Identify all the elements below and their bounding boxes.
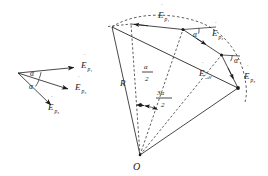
vertex-dot-endpoint [236,86,240,90]
angle-label-alpha-chain-1: α [193,30,198,39]
overdot-ep3-left: ̇ [51,96,53,97]
angle-arc-three-alpha-half-at-O [145,106,158,110]
angle-arc-alpha-chain-2 [231,55,233,61]
angle-arc-alpha-half-at-O [137,105,145,106]
angle-arc-alpha-2-left [36,80,39,87]
right-panel-group: ̇ E p₁ ̇ E p₂ ̇ E p₃ ̇ E ₑₖᴠ α α R α [108,4,255,172]
vector-label-sub-ep3-right: p₃ [250,77,256,83]
vector-label-ep1-left: ̇ E p₁ [80,54,92,72]
overdot-ep2-right: ̇ [215,22,217,23]
overdot-ep2-left: ̇ [78,76,80,77]
vector-label-letter-ep1-left: E [80,60,87,70]
dashed-radius-vertex-3 [140,55,222,155]
dashed-circle-arc [112,15,246,102]
vector-label-ep2-left: ̇ E p₂ [74,76,86,94]
vertex-dot-center-O [139,154,142,157]
vertex-dot-1 [182,28,185,31]
vector-label-ep3-right: ̇ E p₃ [243,65,255,83]
vector-label-sub-ep3-left: p₃ [54,108,60,114]
vertex-dot-2 [220,54,223,57]
angle-label-alpha-1-left: α [30,69,35,78]
vector-label-ep3-left: ̇ E p₃ [47,96,59,114]
vector-label-ep2-right: ̇ E p₂ [211,22,223,40]
chain-arrow-ep2 [196,38,206,45]
vector-label-letter-ep2-left: E [74,82,81,92]
center-label-O: O [133,161,140,172]
alpha-over-2-denominator: 2 [145,75,149,83]
radius-to-endpoint [140,88,238,155]
overdot-ep1-right: ̇ [161,4,163,5]
vector-label-ep1-right: ̇ E p₁ [157,4,169,22]
overdot-resultant: ̇ [202,62,204,63]
angle-label-alpha-over-2: α 2 [142,63,153,83]
vector-label-sub-ep2-left: p₂ [81,88,87,94]
vector-label-letter-ep3-right: E [243,71,250,81]
vector-ep2-left [18,73,68,89]
three-alpha-over-2-numerator: 3α [156,89,165,97]
vector-label-letter-resultant: E [198,68,205,78]
vector-label-letter-ep2-right: E [211,28,218,38]
vector-label-sub-ep1-right: p₁ [164,16,170,22]
overdot-ep3-right: ̇ [247,65,249,66]
vector-label-sub-ep2-right: p₂ [218,34,224,40]
angle-arc-alpha-1-left [39,72,41,78]
vector-label-sub-resultant: ₑₖᴠ [205,74,212,80]
angle-label-three-alpha-over-2: 3α 2 [156,89,172,109]
vector-label-letter-ep1-right: E [157,10,164,20]
vector-label-sub-ep1-left: p₁ [87,66,93,72]
vector-ep1-left [18,68,74,74]
three-alpha-over-2-denominator: 2 [161,101,165,109]
radius-label-R: R [119,78,126,88]
angle-label-alpha-chain-2: α [234,56,239,65]
left-panel-group: α α ̇ E p₁ ̇ E p₂ ̇ E p₃ [18,54,92,114]
alpha-over-2-numerator: α [144,63,148,71]
diagram-canvas: α α ̇ E p₁ ̇ E p₂ ̇ E p₃ [0,0,268,176]
vector-label-resultant: ̇ E ₑₖᴠ [198,62,212,80]
chain-arrow-ep3 [228,68,234,79]
angle-label-alpha-2-left: α [29,82,34,91]
radius-R-left [112,27,140,155]
dashed-horizontal-top [108,24,131,27]
vector-label-letter-ep3-left: E [47,102,54,112]
chain-arrow-ep1 [134,24,148,26]
phasor-diagram-figure: α α ̇ E p₁ ̇ E p₂ ̇ E p₃ [0,0,268,176]
overdot-ep1-left: ̇ [84,54,86,55]
vector-ep3-left [18,73,51,105]
